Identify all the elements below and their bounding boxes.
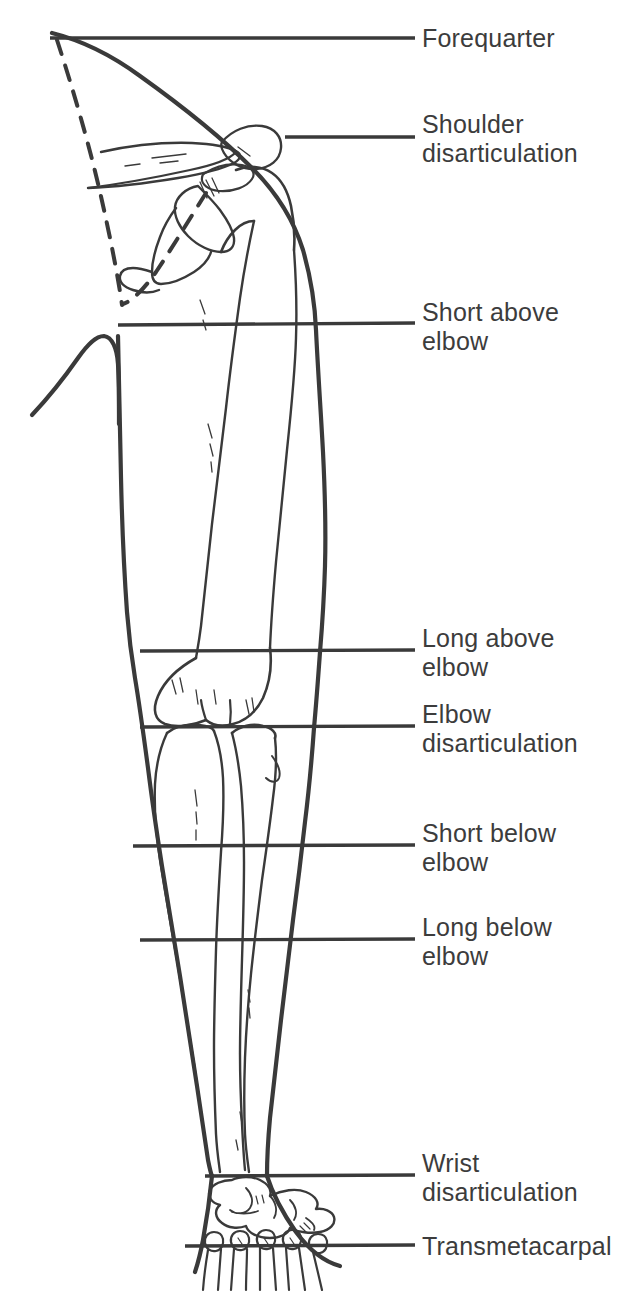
label-long-above-elbow: Long above elbow [422,624,555,682]
hand-lateral-outline [267,1176,340,1266]
axillary-fold-outline [32,336,119,424]
humerus-shaft-lateral [270,250,296,648]
metacarpal-1-shaft [203,1249,221,1290]
amputation-level-lines [50,38,415,1246]
level-line-elbow-disarticulation [140,726,415,727]
level-line-long-above-elbow [140,650,415,651]
label-shoulder-disarticulation: Shoulder disarticulation [422,110,578,168]
level-line-wrist-disarticulation [205,1175,415,1176]
metacarpal-3-shaft [260,1248,276,1290]
clavicle [88,143,240,188]
label-forequarter: Forequarter [422,24,555,53]
forequarter-dashed-line [57,40,122,305]
humerus-shaft-medial [196,221,254,658]
radius-tuberosity [266,756,280,782]
metacarpal-2-shaft [231,1249,247,1290]
label-long-below-elbow: Long below elbow [422,913,552,971]
label-short-below-elbow: Short below elbow [422,819,556,877]
metacarpal-4-shaft [286,1248,305,1290]
humerus-condyles [155,658,206,726]
label-elbow-disarticulation: Elbow disarticulation [422,700,578,758]
label-short-above-elbow: Short above elbow [422,298,559,356]
level-line-short-below-elbow [133,845,415,846]
humerus-condyle-shading [172,678,254,714]
level-line-short-above-elbow [118,323,415,325]
ulna-lateral-border [214,731,223,1172]
clavicle-shading [125,154,186,166]
label-wrist-disarticulation: Wrist disarticulation [422,1149,578,1207]
metacarpal-5 [309,1234,327,1253]
scapula-dashed-line [123,193,206,304]
amputation-levels-figure: Forequarter Shoulder disarticulation Sho… [0,0,622,1295]
medial-arm-outline [118,336,212,1176]
humerus-capitellum [206,648,271,725]
level-line-transmetacarpal [185,1245,415,1246]
radius [232,733,245,1170]
level-line-long-below-elbow [140,939,415,940]
shoulder-girdle-outline [52,33,325,1176]
label-transmetacarpal: Transmetacarpal [422,1232,612,1261]
